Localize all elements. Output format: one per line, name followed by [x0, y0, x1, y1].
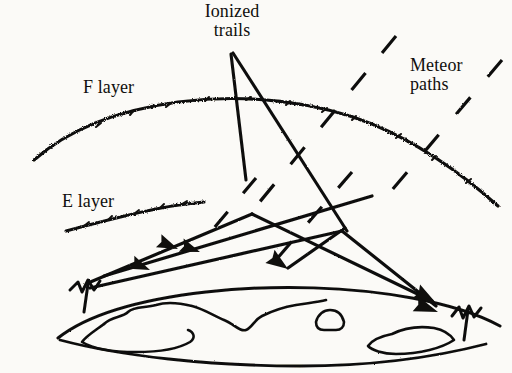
ionized-trails-leader-lines — [231, 53, 347, 231]
antenna-left-icon — [70, 280, 100, 312]
label-e-layer: E layer — [62, 192, 114, 211]
label-f-layer: F layer — [83, 78, 134, 97]
continent-outlines — [82, 300, 454, 354]
diagram-canvas: Ionized trails Meteor paths F layer E la… — [0, 0, 512, 373]
label-meteor-paths: Meteor paths — [410, 56, 506, 93]
label-ionized-trails: Ionized trails — [183, 2, 281, 39]
antenna-right-icon — [452, 306, 481, 340]
arrowhead-icon — [265, 250, 292, 276]
f-layer-curve — [34, 99, 498, 206]
f-layer-texture — [96, 97, 471, 183]
